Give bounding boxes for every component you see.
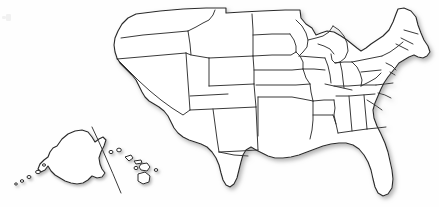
aleutian-island-3 — [20, 180, 23, 183]
alaska-outline — [38, 130, 106, 184]
hawaii-island-maui — [139, 163, 150, 171]
hawaii-island-oahu — [125, 155, 133, 161]
region-contiguous-united-states — [114, 8, 430, 196]
aleutian-island-1 — [36, 170, 41, 173]
region-hawaii-inset — [109, 148, 158, 184]
region-alaska-inset — [15, 130, 106, 185]
hawaii-island-big-island — [138, 172, 150, 184]
hawaii-island-molokai — [134, 160, 142, 164]
us-map-svg — [0, 0, 439, 207]
hawaii-island-small-east — [154, 169, 158, 172]
aleutian-island-4 — [15, 183, 18, 185]
hawaii-island-kauai — [117, 148, 122, 152]
us-map-figure — [0, 0, 439, 207]
aleutian-island-2 — [27, 176, 31, 179]
hawaii-island-niihau — [109, 150, 113, 153]
hawaii-island-lanai — [134, 166, 138, 169]
contiguous-us-outline — [114, 8, 430, 196]
corner-artifact — [2, 14, 11, 21]
aleutian-island-5 — [42, 164, 45, 166]
